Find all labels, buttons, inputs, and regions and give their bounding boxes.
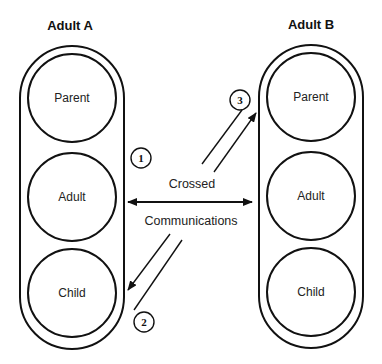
person-adult-a: Adult A Parent Adult Child [20,18,124,349]
transaction-3: 3 [202,90,256,172]
transaction-2: 2 [128,234,182,332]
ego-label: Parent [293,90,329,104]
arrow-to-parent-b [214,113,256,172]
ego-label: Adult [297,189,325,203]
person-a-title: Adult A [47,18,93,33]
ego-label: Child [297,285,324,299]
arrow-to-child-a [128,234,170,290]
ego-state-child-b: Child [267,248,355,336]
arrow-companion-line [202,110,242,164]
person-adult-b: Adult B Parent Adult Child [259,17,363,348]
ego-state-adult-b: Adult [267,152,355,240]
ego-state-parent-a: Parent [28,54,116,142]
ego-label: Child [58,286,85,300]
marker-label-1: 1 [138,152,144,164]
ego-label: Adult [58,190,86,204]
ego-state-parent-b: Parent [267,53,355,141]
crossed-communications-diagram: Adult A Parent Adult Child Adult B Paren… [0,0,382,364]
marker-label-3: 3 [237,94,243,106]
marker-label-2: 2 [141,316,147,328]
ego-state-child-a: Child [28,249,116,337]
communications-label: Communications [144,214,237,228]
ego-label: Parent [54,91,90,105]
crossed-label: Crossed [169,177,216,191]
ego-state-adult-a: Adult [28,153,116,241]
transaction-1: 1 [131,148,151,168]
person-b-title: Adult B [288,17,334,32]
